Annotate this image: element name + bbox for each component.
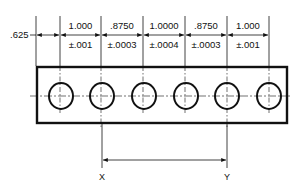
spacing-4-nominal: .8750 [194,20,218,31]
spacing-2-nominal: .8750 [110,20,134,31]
spacing-1-tolerance: ±.001 [69,39,93,50]
spacing-2-tolerance: ±.0003 [108,39,137,50]
spacing-1-nominal: 1.000 [69,20,93,31]
datum-x-label: X [99,172,105,182]
plate-outline [37,67,287,123]
spacing-4-tolerance: ±.0003 [192,39,221,50]
xy-dimension [102,124,227,168]
spacing-5-tolerance: ±.001 [236,39,260,50]
spacing-3-nominal: 1.0000 [149,20,178,31]
hole-pattern-drawing: .625 1.000 ±.001 .8750 ±.0003 1.0000 ±.0… [0,0,300,184]
left-offset-dimension: .625 [10,29,29,40]
hole-centerlines [60,66,269,128]
spacing-5-nominal: 1.000 [236,20,260,31]
datum-y-label: Y [224,172,230,182]
spacing-3-tolerance: ±.0004 [150,39,179,50]
